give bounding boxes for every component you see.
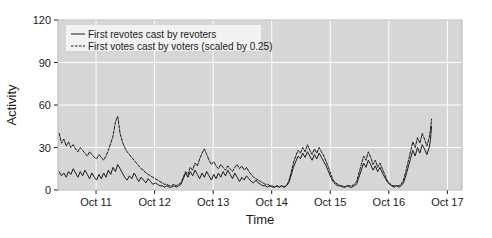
legend-label-1: First votes cast by voters (scaled by 0.…: [88, 41, 273, 52]
chart-svg: 0306090120Oct 11Oct 12Oct 13Oct 14Oct 15…: [0, 0, 492, 238]
y-tick-label: 30: [39, 142, 51, 154]
y-tick-label: 60: [39, 99, 51, 111]
legend-label-0: First revotes cast by revoters: [88, 29, 216, 40]
y-tick-label: 90: [39, 57, 51, 69]
y-axis-title: Activity: [4, 84, 19, 126]
chart-figure: 0306090120Oct 11Oct 12Oct 13Oct 14Oct 15…: [0, 0, 492, 238]
x-tick-label: Oct 11: [80, 196, 112, 208]
x-tick-label: Oct 14: [256, 196, 288, 208]
x-tick-label: Oct 13: [197, 196, 229, 208]
y-tick-label: 0: [45, 184, 51, 196]
x-axis-title: Time: [246, 212, 274, 227]
y-tick-label: 120: [33, 14, 51, 26]
x-tick-label: Oct 12: [138, 196, 170, 208]
chart-legend: First revotes cast by revotersFirst vote…: [66, 25, 273, 52]
x-tick-label: Oct 17: [431, 196, 463, 208]
x-tick-label: Oct 16: [373, 196, 405, 208]
x-tick-label: Oct 15: [314, 196, 346, 208]
